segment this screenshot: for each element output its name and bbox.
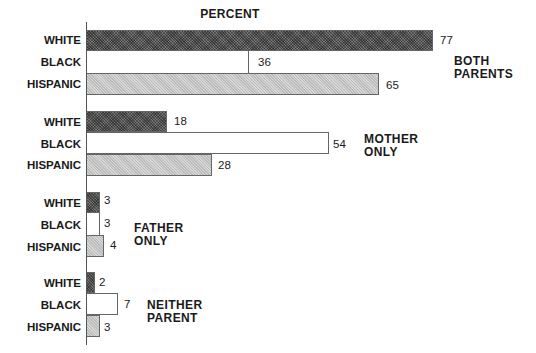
row-label: WHITE	[44, 115, 81, 129]
group-label-line: ONLY	[364, 146, 418, 159]
bar-both-white	[87, 30, 433, 51]
group-label-both-parents: BOTH PARENTS	[454, 55, 513, 81]
group-label-neither-parent: NEITHER PARENT	[147, 299, 202, 325]
bar-neither-black	[87, 293, 118, 315]
value-label: 36	[258, 55, 271, 69]
row-label: HISPANIC	[27, 158, 81, 172]
row-label: BLACK	[41, 55, 81, 69]
bar-mother-hispanic	[87, 154, 212, 176]
value-label: 7	[124, 297, 130, 311]
bar-both-black	[87, 51, 249, 73]
row-label: BLACK	[41, 298, 81, 312]
bar-neither-hispanic	[87, 315, 100, 337]
row-label: WHITE	[44, 196, 81, 210]
bar-father-hispanic	[87, 235, 104, 257]
group-label-line: PARENT	[147, 312, 202, 325]
bar-both-hispanic	[87, 73, 379, 95]
bar-neither-white	[87, 272, 95, 293]
value-label: 65	[386, 78, 399, 92]
value-label: 3	[104, 193, 110, 207]
row-label: BLACK	[41, 218, 81, 232]
row-label: HISPANIC	[27, 240, 81, 254]
value-label: 3	[104, 320, 110, 334]
value-label: 3	[104, 216, 110, 230]
row-label: HISPANIC	[27, 320, 81, 334]
row-label: BLACK	[41, 137, 81, 151]
value-label: 77	[440, 33, 453, 47]
chart-title: PERCENT	[0, 7, 536, 21]
value-label: 4	[110, 238, 116, 252]
bar-mother-black	[87, 132, 329, 154]
row-label: WHITE	[44, 276, 81, 290]
value-label: 18	[174, 114, 187, 128]
row-label: WHITE	[44, 33, 81, 47]
row-label: HISPANIC	[27, 77, 81, 91]
value-label: 28	[218, 158, 231, 172]
group-label-line: PARENTS	[454, 68, 513, 81]
group-label-line: ONLY	[134, 235, 184, 248]
value-label: 2	[99, 275, 105, 289]
bar-father-white	[87, 192, 100, 213]
bar-mother-white	[87, 111, 167, 132]
bar-father-black	[87, 213, 100, 235]
chart-title-text: PERCENT	[200, 7, 259, 21]
group-label-mother-only: MOTHER ONLY	[364, 133, 418, 159]
value-label: 54	[333, 137, 346, 151]
group-label-father-only: FATHER ONLY	[134, 222, 184, 248]
